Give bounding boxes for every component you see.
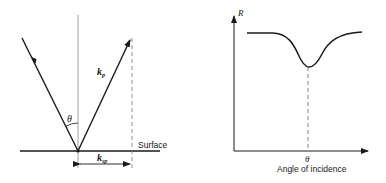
ksp-label: ksp [97,152,107,164]
figure-canvas: θ kp Surface ksp R θ Angle of incidence [0,0,386,183]
surface-label: Surface [138,140,168,150]
reflected-ray [78,40,130,151]
reflectivity-curve [247,32,362,67]
angle-label: θ [67,113,72,124]
incident-arrow-icon [32,57,37,65]
theta-tick-label: θ [305,154,310,164]
reflectivity-plot: R θ Angle of incidence [234,8,368,174]
reflection-diagram: θ kp Surface ksp [20,15,168,168]
y-axis-label: R [237,8,244,18]
incidence-point [76,149,79,152]
incident-ray [22,38,78,151]
x-axis-label: Angle of incidence [277,164,347,174]
kp-label: kp [97,66,105,78]
